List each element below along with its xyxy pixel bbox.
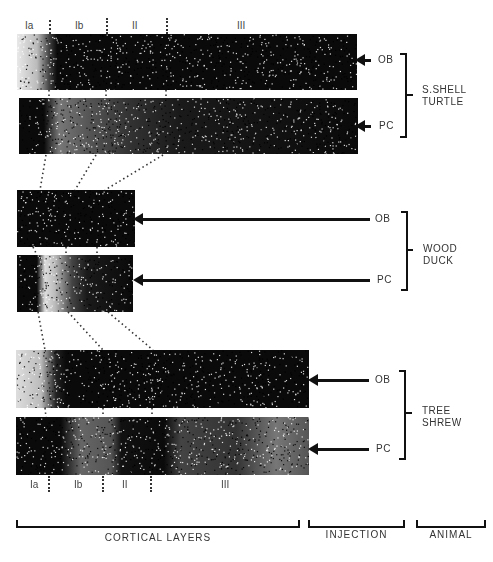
injection-label-shrew-pc: PC bbox=[376, 443, 391, 454]
group-bracket-cortical-layers bbox=[16, 520, 300, 528]
arrow-shaft bbox=[363, 125, 371, 128]
injection-label-turtle-ob: OB bbox=[378, 54, 393, 65]
layer-label-ii-bottom: II bbox=[122, 479, 128, 490]
group-label-animal: ANIMAL bbox=[416, 529, 486, 540]
arrow-shaft bbox=[316, 448, 369, 451]
group-label-cortical-layers: CORTICAL LAYERS bbox=[16, 532, 300, 543]
group-bracket-injection bbox=[308, 520, 405, 528]
animal-name-line2: DUCK bbox=[423, 255, 457, 267]
animal-label-duck: WOOD DUCK bbox=[423, 243, 457, 267]
layer-boundary-marker bbox=[48, 476, 50, 492]
layer-boundary-marker bbox=[150, 476, 152, 492]
injection-label-shrew-ob: OB bbox=[375, 374, 390, 385]
bracket-tick bbox=[405, 412, 412, 414]
layer-boundary-marker bbox=[102, 476, 104, 492]
injection-label-duck-ob: OB bbox=[375, 213, 390, 224]
injection-label-duck-pc: PC bbox=[377, 274, 392, 285]
animal-name-line2: TURTLE bbox=[422, 96, 467, 108]
animal-bracket-duck bbox=[401, 211, 408, 291]
arrow-shaft bbox=[142, 218, 370, 221]
animal-name-line1: WOOD bbox=[423, 243, 457, 255]
animal-bracket-shrew bbox=[399, 370, 406, 460]
bracket-tick bbox=[407, 249, 413, 251]
layer-label-ia-bottom: Ia bbox=[30, 479, 38, 490]
bracket-tick bbox=[406, 94, 413, 96]
layer-label-iii-bottom: III bbox=[221, 479, 229, 490]
animal-name-line2: SHREW bbox=[422, 417, 462, 429]
group-label-injection: INJECTION bbox=[308, 529, 405, 540]
animal-name-line1: TREE bbox=[422, 405, 462, 417]
arrow-shaft bbox=[142, 279, 370, 282]
arrow-shaft bbox=[316, 379, 369, 382]
arrow-shaft bbox=[363, 59, 371, 62]
animal-label-shrew: TREE SHREW bbox=[422, 405, 462, 429]
animal-name-line1: S.SHELL bbox=[422, 84, 467, 96]
layer-label-ib-bottom: Ib bbox=[74, 479, 82, 490]
group-bracket-animal bbox=[416, 520, 486, 528]
injection-label-turtle-pc: PC bbox=[379, 120, 394, 131]
animal-label-turtle: S.SHELL TURTLE bbox=[422, 84, 467, 108]
